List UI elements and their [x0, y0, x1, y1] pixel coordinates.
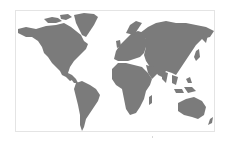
world-map — [16, 11, 216, 133]
japan — [194, 49, 200, 61]
southeast-asia — [172, 75, 196, 93]
world-map-frame — [15, 10, 215, 132]
south-america — [74, 81, 100, 131]
africa — [112, 63, 152, 115]
decorative-mark — [152, 136, 153, 138]
arctic-islands — [44, 14, 72, 23]
new-zealand — [208, 117, 213, 125]
australia — [178, 97, 206, 119]
north-america — [18, 23, 88, 81]
madagascar — [149, 95, 152, 105]
